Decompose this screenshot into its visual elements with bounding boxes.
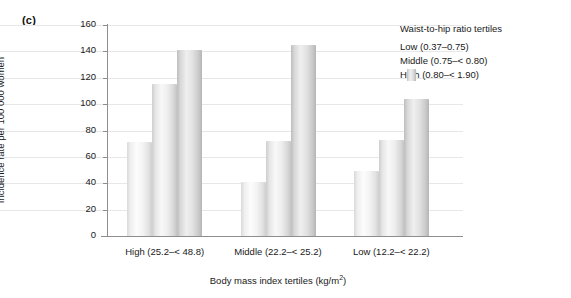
bar [127, 142, 152, 236]
x-axis-title-tail: ) [343, 275, 346, 286]
bar [241, 182, 266, 236]
y-axis-tick-label: 80 [85, 124, 96, 135]
bar [379, 140, 404, 236]
bar [291, 45, 316, 236]
bar [404, 99, 429, 236]
y-axis-tick-label: 120 [80, 71, 96, 82]
legend-swatch-icon [407, 69, 416, 81]
legend: Waist-to-hip ratio tertiles Low (0.37–0.… [400, 23, 565, 81]
x-axis-title-text: Body mass index tertiles (kg/m [210, 275, 339, 286]
y-axis-tick-label: 100 [80, 97, 96, 108]
legend-entries: Low (0.37–0.75)Middle (0.75–< 0.80)High … [400, 39, 565, 81]
bar-group [127, 25, 202, 236]
bar [354, 171, 379, 236]
legend-entry: High (0.80–< 1.90) [400, 67, 565, 81]
y-axis-tick-label: 20 [85, 203, 96, 214]
bar [177, 50, 202, 236]
y-axis-tick-label: 40 [85, 176, 96, 187]
y-axis-tick-label: 0 [91, 229, 96, 240]
y-axis-tick-label: 60 [85, 150, 96, 161]
x-axis-line [101, 236, 463, 237]
plot-area [108, 25, 448, 236]
y-axis-tick-label: 140 [80, 44, 96, 55]
figure-panel-c: (c) 020406080100120140160 Incidence rate… [0, 0, 571, 298]
y-axis-tick-mark [103, 236, 108, 237]
legend-label: Low (0.37–0.75) [400, 41, 469, 52]
bar-group [241, 25, 316, 236]
legend-title: Waist-to-hip ratio tertiles [400, 23, 565, 34]
legend-label: Middle (0.75–< 0.80) [400, 55, 487, 66]
x-axis-tick-label: Low (12.2–< 22.2) [321, 246, 461, 257]
x-axis-title: Body mass index tertiles (kg/m2) [108, 274, 448, 286]
bar [266, 141, 291, 236]
y-axis-tick-label: 160 [80, 18, 96, 29]
y-axis-title: Incidence rate per 100 000 women [0, 24, 9, 236]
legend-entry: Middle (0.75–< 0.80) [400, 53, 565, 67]
legend-entry: Low (0.37–0.75) [400, 39, 565, 53]
bar [152, 84, 177, 236]
